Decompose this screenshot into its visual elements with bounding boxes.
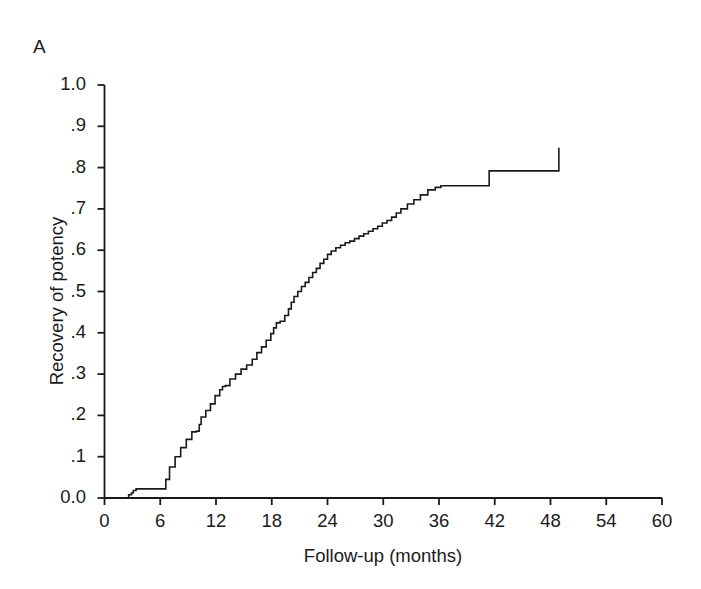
plot-area <box>0 0 701 589</box>
figure-panel-a: A Recovery of potency Follow-up (months)… <box>0 0 701 589</box>
y-axis-ticks <box>98 85 105 498</box>
axis-lines <box>105 85 663 498</box>
survival-step-curve <box>105 148 559 498</box>
x-axis-ticks <box>105 498 663 505</box>
